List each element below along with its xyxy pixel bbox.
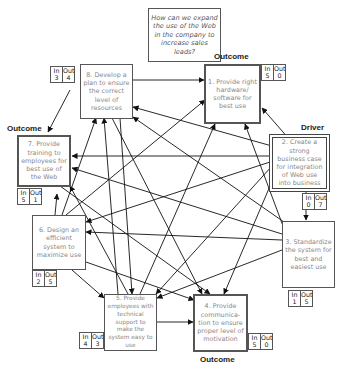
out-count: 0 (261, 342, 272, 349)
out-count: 7 (315, 202, 326, 209)
arrow-5-to-8 (104, 118, 118, 294)
node-6-design-system: 6. Design an efficient system to maximiz… (32, 215, 86, 270)
node-7-training: 7. Provide training to employees for bes… (17, 135, 71, 187)
outcome-tag-node-1: Outcome (214, 52, 249, 61)
in-count: 3 (51, 75, 62, 82)
driver-tag-node-2: Driver (301, 123, 324, 132)
arrow-3-to-5 (157, 250, 282, 298)
out-count: 0 (274, 73, 285, 80)
outcome-tag-node-4: Outcome (200, 355, 235, 364)
node-1-hardware-software: 1. Provide right hardware/ software for … (204, 64, 261, 124)
node-7-io: In5 Out1 (17, 188, 42, 205)
arrow-3-to-8 (133, 117, 284, 222)
arrow-2-to-5 (156, 166, 272, 294)
node-4-io: In5 Out0 (248, 333, 273, 350)
in-count: 5 (249, 342, 260, 349)
node-3-io: In1 Out5 (288, 290, 313, 307)
in-count: 0 (303, 202, 314, 209)
node-4-communication: 4. Provide communica-tion to ensure prop… (193, 294, 248, 352)
arrow-3-to-6 (86, 232, 282, 240)
in-count: 5 (262, 73, 273, 80)
in-count: 2 (33, 279, 44, 286)
out-count: 1 (30, 197, 41, 204)
in-count: 1 (289, 299, 300, 306)
arrow-8-to-4 (112, 118, 202, 294)
arrow-6-to-7 (55, 194, 57, 215)
in-count: 5 (18, 197, 29, 204)
node-6-io: In2 Out5 (32, 270, 57, 287)
out-count: 3 (92, 341, 103, 348)
out-count: 4 (63, 75, 74, 82)
out-count: 5 (45, 279, 56, 286)
interrelationship-digraph: How can we expand the use of the Web in … (0, 0, 339, 368)
node-5-io: In4 Out3 (79, 332, 104, 349)
node-2-business-case: 2. Create a strong business case for int… (269, 134, 330, 192)
arrow-6-to-5 (72, 270, 104, 298)
node-8-develop-plan: 8. Develop a plan to ensure the correct … (80, 64, 133, 119)
arrow-2-to-6 (86, 162, 270, 222)
arrow-8-to-7 (48, 90, 70, 132)
outcome-tag-node-7: Outcome (7, 124, 42, 133)
node-8-io: In3 Out4 (50, 66, 75, 83)
out-count: 5 (301, 299, 312, 306)
arrow-3-to-7 (72, 168, 282, 234)
in-count: 4 (80, 341, 91, 348)
node-3-standardize: 3. Standardize the system for best and e… (282, 221, 335, 288)
node-1-io: In5 Out0 (261, 64, 286, 81)
node-2-io: In0 Out7 (302, 193, 327, 210)
question-box: How can we expand the use of the Web in … (148, 8, 221, 62)
node-5-technical-support: 5. Provide employees with technical supp… (104, 294, 157, 351)
